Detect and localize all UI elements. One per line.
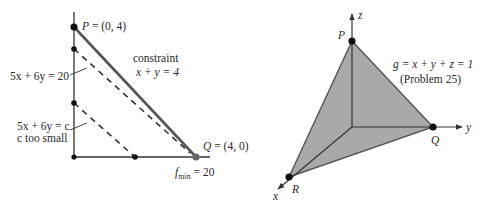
figure-canvas: P = (0, 4) constraint x + y = 4 5x + 6y …: [0, 0, 480, 209]
dot-20-intercept: [71, 46, 77, 52]
label-Q-3d: Q: [431, 134, 440, 146]
label-c-too-small: c too small: [17, 132, 67, 144]
label-P-3d: P: [337, 29, 345, 41]
right-figure: z y x P Q R g = x + y + z = 1 (Problem 2…: [272, 9, 473, 202]
level-line-20: [74, 49, 190, 153]
dot-c-intercept: [71, 100, 77, 106]
label-Q: Q = (4, 0): [203, 140, 249, 153]
label-constraint-eq: x + y = 4: [135, 66, 179, 79]
label-plane-eq: g = x + y + z = 1: [393, 58, 473, 71]
level-line-c: [74, 103, 135, 157]
origin-dot: [71, 154, 76, 159]
point-P-3d-dot: [348, 37, 355, 44]
point-Q-dot: [192, 153, 199, 160]
label-y-axis: y: [465, 121, 472, 134]
label-level-20: 5x + 6y = 20: [10, 70, 69, 83]
leader-c: [70, 123, 87, 130]
point-R-3d-dot: [285, 173, 292, 180]
label-R-3d: R: [291, 183, 299, 195]
left-figure: P = (0, 4) constraint x + y = 4 5x + 6y …: [10, 12, 249, 181]
constraint-line: [74, 27, 196, 157]
dot-c-x-intercept: [132, 154, 138, 160]
label-problem-ref: (Problem 25): [400, 73, 461, 86]
label-constraint: constraint: [133, 52, 179, 64]
label-x-axis: x: [272, 190, 279, 202]
label-fmin: fmin = 20: [175, 166, 215, 181]
label-z-axis: z: [357, 9, 363, 21]
leader-20: [70, 68, 87, 75]
label-P: P = (0, 4): [81, 20, 126, 33]
point-Q-3d-dot: [429, 123, 436, 130]
point-P-dot: [70, 23, 77, 30]
